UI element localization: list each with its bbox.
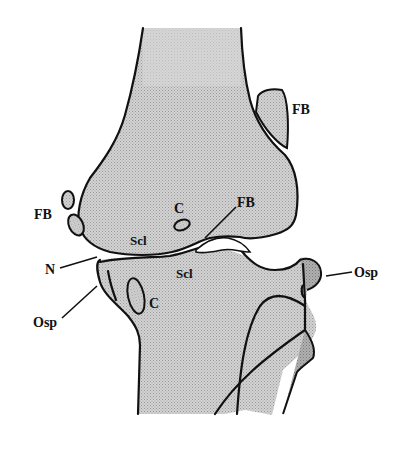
- label-scl-tibia: Scl: [176, 266, 193, 281]
- label-fb-upper-right: FB: [292, 102, 310, 117]
- label-scl-femur: Scl: [130, 233, 147, 248]
- knee-diagram: FB FB FB C C Scl Scl N Osp Osp: [0, 0, 402, 467]
- fb-left-body-1: [62, 191, 74, 209]
- osp-left-leader: [62, 286, 97, 318]
- label-n: N: [45, 262, 55, 277]
- label-c-tibia: C: [149, 296, 159, 311]
- label-osp-right: Osp: [354, 265, 378, 280]
- osp-right-leader: [326, 272, 352, 276]
- tibia: [97, 243, 321, 415]
- label-fb-left: FB: [34, 207, 52, 222]
- label-osp-left: Osp: [33, 315, 57, 330]
- n-leader: [60, 257, 97, 268]
- label-c-femur: C: [174, 201, 184, 216]
- label-fb-joint: FB: [237, 195, 255, 210]
